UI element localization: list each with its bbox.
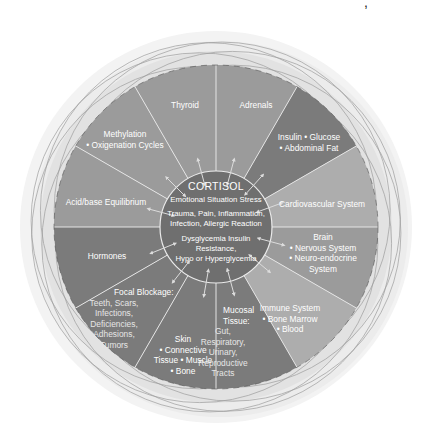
label-cardiovascular: Cardiovascular System xyxy=(279,199,365,209)
center-line-emotional-stress: Emotional Situation Stress xyxy=(170,195,262,204)
label-adrenals: Adrenals xyxy=(239,100,272,110)
label-thyroid: Thyroid xyxy=(171,100,199,110)
label-acidbase: Acid/base Equilibrium xyxy=(66,197,147,207)
label-insulin: Insulin • Glucose• Abdominal Fat xyxy=(278,132,341,153)
health-factors-wheel-diagram: ThyroidAdrenalsInsulin • Glucose• Abdomi… xyxy=(0,0,430,445)
center-line-trauma: Trauma, Pain, Inflammation, xyxy=(167,209,265,218)
cortisol-title: CORTISOL xyxy=(188,180,244,192)
center-line-hypo-hyper: Hypo or Hyperglycemia xyxy=(175,254,257,263)
center-line-infection: Infection, Allergic Reaction xyxy=(170,219,262,228)
center-line-dysglycemia: Dysglycemia Insulin xyxy=(182,234,251,243)
center-line-resistance: Resistance, xyxy=(196,244,237,253)
label-hormones: Hormones xyxy=(88,251,127,261)
